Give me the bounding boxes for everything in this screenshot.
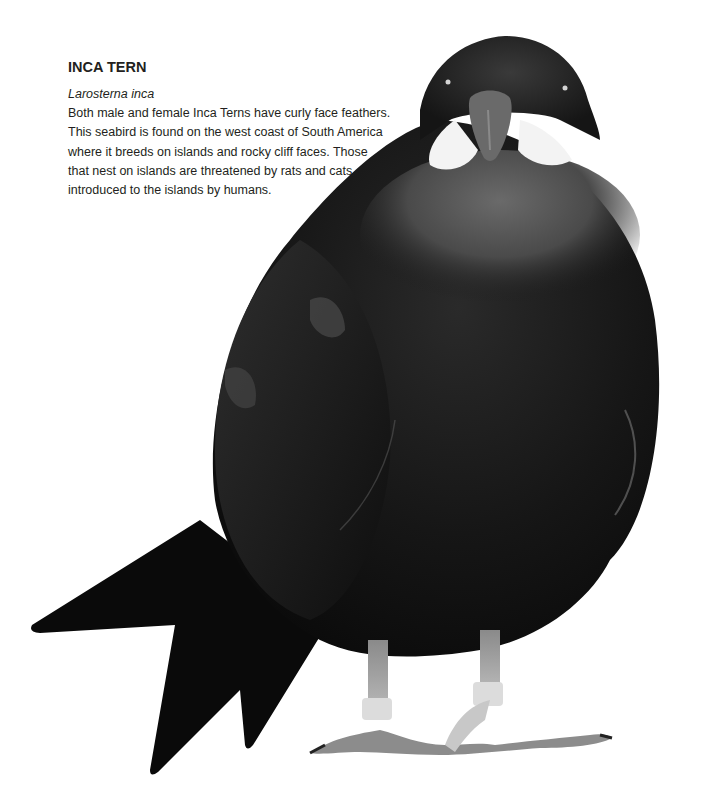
description-line: introduced to the islands by humans. [68,181,368,200]
feet [310,700,612,755]
description-line: where it breeds on islands and rocky cli… [68,143,368,162]
leg-band-left [362,698,392,720]
description-line: that nest on islands are threatened by r… [68,162,368,181]
description-line: This seabird is found on the west coast … [68,123,368,142]
scientific-name: Larosterna inca [68,85,368,104]
species-caption: INCA TERN Larosterna inca Both male and … [68,58,368,200]
species-title: INCA TERN [68,58,368,76]
species-description: Both male and female Inca Terns have cur… [68,104,368,200]
body [213,120,659,657]
description-line: Both male and female Inca Terns have cur… [68,104,368,123]
